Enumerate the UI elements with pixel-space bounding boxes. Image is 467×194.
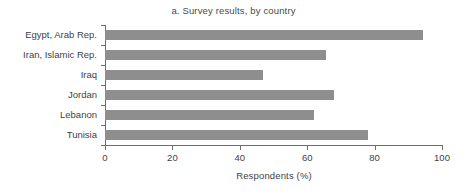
x-axis-tick-label: 100 xyxy=(422,152,462,163)
y-axis-tick xyxy=(101,125,105,126)
plot-area: Egypt, Arab Rep.Iran, Islamic Rep.IraqJo… xyxy=(105,25,442,145)
bar[interactable] xyxy=(105,110,314,120)
bar[interactable] xyxy=(105,130,368,140)
x-axis-tick-label: 0 xyxy=(85,152,125,163)
y-axis-tick-label: Jordan xyxy=(0,85,97,105)
y-axis-tick xyxy=(101,25,105,26)
x-axis-tick xyxy=(375,146,376,150)
x-axis-tick-label: 40 xyxy=(220,152,260,163)
chart-title: a. Survey results, by country xyxy=(0,5,467,16)
x-axis-spine xyxy=(105,145,443,146)
y-axis-tick-label: Iraq xyxy=(0,65,97,85)
x-axis-tick xyxy=(172,146,173,150)
x-axis-tick-label: 80 xyxy=(355,152,395,163)
x-axis-tick xyxy=(240,146,241,150)
bar-row: Iran, Islamic Rep. xyxy=(105,45,442,65)
bar[interactable] xyxy=(105,90,334,100)
y-axis-tick-label: Tunisia xyxy=(0,125,97,145)
y-axis-tick-label: Iran, Islamic Rep. xyxy=(0,45,97,65)
bar-row: Lebanon xyxy=(105,105,442,125)
bar-row: Jordan xyxy=(105,85,442,105)
x-axis-tick-label: 20 xyxy=(152,152,192,163)
y-axis-tick xyxy=(101,85,105,86)
y-axis-tick xyxy=(101,105,105,106)
bar[interactable] xyxy=(105,30,423,40)
y-axis-tick xyxy=(101,45,105,46)
y-axis-tick xyxy=(101,65,105,66)
bar[interactable] xyxy=(105,70,263,80)
bar-chart-figure: a. Survey results, by country Egypt, Ara… xyxy=(0,0,467,194)
x-axis-tick xyxy=(442,146,443,150)
bar-row: Iraq xyxy=(105,65,442,85)
bar-row: Tunisia xyxy=(105,125,442,145)
x-axis-tick xyxy=(307,146,308,150)
bar[interactable] xyxy=(105,50,326,60)
y-axis-tick-label: Egypt, Arab Rep. xyxy=(0,25,97,45)
y-axis-tick-label: Lebanon xyxy=(0,105,97,125)
x-axis-tick-label: 60 xyxy=(287,152,327,163)
bar-row: Egypt, Arab Rep. xyxy=(105,25,442,45)
x-axis-label: Respondents (%) xyxy=(105,170,443,181)
x-axis-tick xyxy=(105,146,106,150)
